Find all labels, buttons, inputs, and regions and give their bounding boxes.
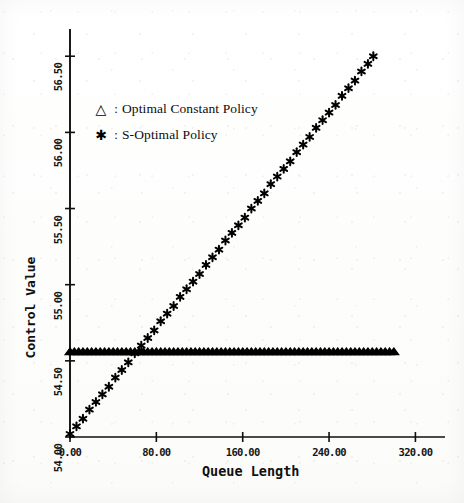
data-marker-star xyxy=(235,221,242,229)
legend-item: △ : Optimal Constant Policy xyxy=(92,96,258,122)
x-axis-tick-label: 0.00 xyxy=(59,446,82,458)
data-marker-star xyxy=(112,374,119,382)
data-marker-star xyxy=(352,77,359,85)
data-marker-star xyxy=(274,173,281,181)
data-marker-star xyxy=(118,366,125,374)
data-marker-star xyxy=(203,261,210,269)
chart-plot-area xyxy=(0,0,464,503)
data-marker-star xyxy=(248,205,255,213)
x-axis-tick-label: 320.00 xyxy=(399,446,433,458)
data-marker-star xyxy=(105,383,112,391)
data-marker-star xyxy=(254,197,261,205)
data-marker-star xyxy=(80,415,87,423)
chart-legend: △ : Optimal Constant Policy ✱ : S-Optima… xyxy=(92,96,258,148)
data-marker-star xyxy=(86,406,93,414)
triangle-marker-icon: △ xyxy=(92,102,110,116)
chart-axes xyxy=(65,29,445,442)
chart-series-triangle xyxy=(65,348,399,355)
data-marker-star xyxy=(190,278,197,286)
data-marker-star xyxy=(261,189,268,197)
data-marker-star xyxy=(280,165,287,173)
data-marker-star xyxy=(164,310,171,318)
data-marker-star xyxy=(229,229,236,237)
legend-separator: : xyxy=(110,101,122,117)
data-marker-star xyxy=(196,270,203,278)
data-marker-star xyxy=(287,157,294,165)
y-axis-tick-label: 54.50 xyxy=(52,360,64,404)
data-marker-star xyxy=(73,422,80,430)
y-axis-tick-label: 55.50 xyxy=(52,208,64,252)
legend-item: ✱ : S-Optimal Policy xyxy=(92,122,258,148)
y-axis-title: Control Value xyxy=(23,253,38,363)
data-marker-star xyxy=(222,237,229,245)
y-axis-tick-label: 54.00 xyxy=(52,436,64,480)
x-axis-tick-label: 160.00 xyxy=(226,446,260,458)
data-marker-star xyxy=(300,141,307,149)
data-marker-star xyxy=(216,246,223,254)
data-marker-star xyxy=(267,180,274,188)
x-axis-tick-label: 240.00 xyxy=(312,446,346,458)
legend-label-s-optimal-policy: S-Optimal Policy xyxy=(122,127,218,143)
x-axis-tick-label: 80.00 xyxy=(142,446,170,458)
data-marker-star xyxy=(151,326,158,334)
y-axis-tick-label: 56.00 xyxy=(52,131,64,175)
data-marker-star xyxy=(144,334,151,342)
data-marker-star xyxy=(157,317,164,325)
data-marker-star xyxy=(177,293,184,301)
data-marker-star xyxy=(332,101,339,109)
y-axis-tick-label: 55.00 xyxy=(52,284,64,328)
data-marker-star xyxy=(170,302,177,310)
data-marker-star xyxy=(339,92,346,100)
data-marker-star xyxy=(345,84,352,92)
y-axis-tick-label: 56.50 xyxy=(52,55,64,99)
data-marker-star xyxy=(365,60,372,68)
data-marker-star xyxy=(209,253,216,261)
data-marker-star xyxy=(319,116,326,124)
data-marker-star xyxy=(313,124,320,132)
legend-label-optimal-constant-policy: Optimal Constant Policy xyxy=(122,101,258,117)
data-marker-star xyxy=(183,285,190,293)
legend-separator: : xyxy=(110,127,122,143)
data-marker-star xyxy=(99,390,106,398)
data-marker-star xyxy=(93,398,100,406)
data-marker-star xyxy=(241,214,248,222)
data-marker-star xyxy=(358,68,365,76)
x-axis-title: Queue Length xyxy=(202,463,300,479)
data-marker-star xyxy=(370,52,377,60)
data-marker-star xyxy=(326,109,333,117)
data-marker-star xyxy=(125,358,132,366)
chart-figure: 54.0054.5055.0055.5056.0056.50 0.0080.00… xyxy=(0,0,464,503)
data-marker-star xyxy=(293,148,300,156)
star-marker-icon: ✱ xyxy=(92,128,110,142)
data-marker-star xyxy=(306,133,313,141)
